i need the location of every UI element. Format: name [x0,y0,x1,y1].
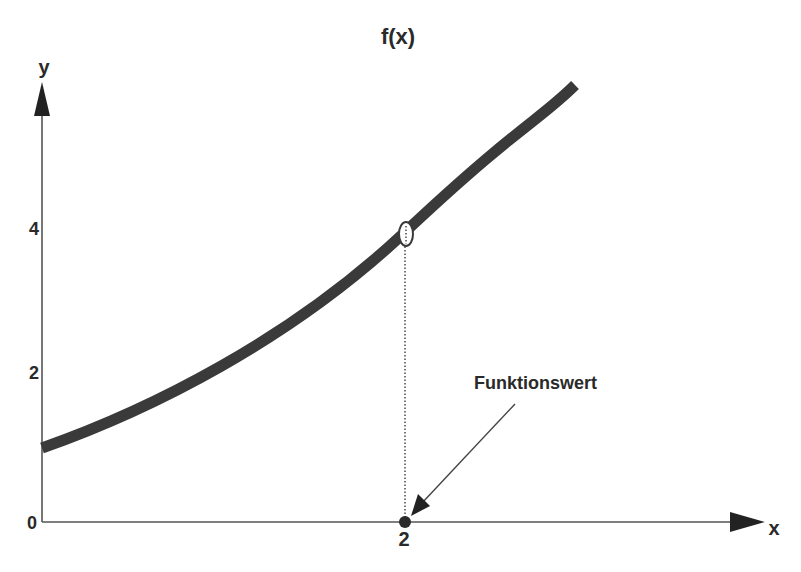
y-axis: y [34,56,50,522]
x-axis: x [42,512,780,539]
x-axis-point-marker [399,516,411,528]
y-axis-label: y [38,56,50,78]
x-axis-label: x [768,517,779,539]
y-tick-label-2: 2 [29,363,39,383]
y-axis-arrow-icon [34,82,50,116]
y-tick-label-0: 0 [27,513,37,533]
annotation-arrow [411,404,515,516]
annotation-label: Funktionswert [474,373,597,393]
y-tick-label-4: 4 [29,219,39,239]
x-axis-arrow-icon [730,512,765,532]
function-curve [42,85,575,448]
function-diagram: f(x) y x 4 2 0 2 Funktionswert [0,0,801,572]
x-tick-label-2: 2 [398,528,409,550]
diagram-title: f(x) [381,24,415,49]
